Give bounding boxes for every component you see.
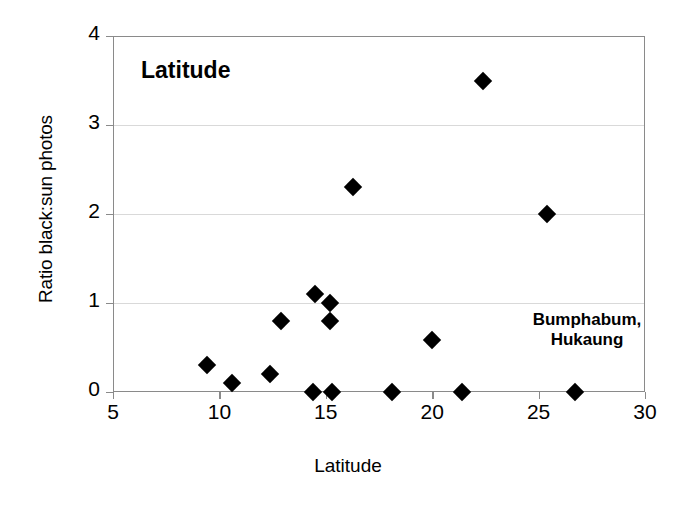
x-tick-label-5: 5: [83, 400, 143, 424]
annotation-line-2: Hukaung: [512, 330, 662, 350]
x-tick-30: [645, 392, 646, 399]
chart-title: Latitude: [141, 57, 230, 84]
y-tick-1: [106, 303, 113, 304]
gridline-y-3: [114, 125, 644, 126]
y-tick-3: [106, 125, 113, 126]
y-tick-0: [106, 392, 113, 393]
gridline-y-2: [114, 214, 644, 215]
x-tick-label-10: 10: [189, 400, 249, 424]
x-tick-label-25: 25: [509, 400, 569, 424]
y-tick-label-0: 0: [58, 377, 100, 401]
x-axis-title: Latitude: [0, 455, 696, 477]
annotation-bumphabum-hukaung: Bumphabum, Hukaung: [512, 310, 662, 350]
y-tick-label-2: 2: [58, 199, 100, 223]
x-tick-label-15: 15: [296, 400, 356, 424]
y-tick-2: [106, 214, 113, 215]
y-tick-label-3: 3: [58, 110, 100, 134]
y-tick-label-4: 4: [58, 21, 100, 45]
y-axis-title: Ratio black:sun photos: [35, 59, 57, 359]
x-tick-25: [539, 392, 540, 399]
x-tick-5: [113, 392, 114, 399]
gridline-y-1: [114, 303, 644, 304]
chart-container: Ratio black:sun photos 5101520253001234 …: [0, 0, 696, 505]
annotation-line-1: Bumphabum,: [512, 310, 662, 330]
x-tick-10: [219, 392, 220, 399]
y-tick-label-1: 1: [58, 288, 100, 312]
x-tick-label-30: 30: [615, 400, 675, 424]
x-tick-20: [432, 392, 433, 399]
x-tick-label-20: 20: [402, 400, 462, 424]
y-tick-4: [106, 36, 113, 37]
